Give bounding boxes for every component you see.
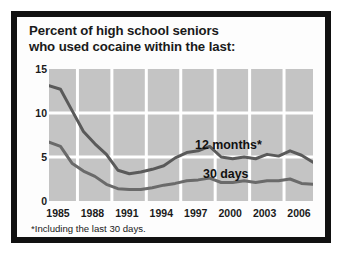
x-axis: 19851988199119941997200020032006 (47, 207, 319, 221)
plot-area (49, 69, 313, 201)
y-axis-tick-label: 5 (25, 151, 47, 163)
x-axis-tick-label: 1985 (46, 207, 69, 219)
x-axis-tick-label: 1997 (184, 207, 207, 219)
chart-card-inner: Percent of high school seniors who used … (17, 17, 325, 237)
x-axis-tick-label: 2003 (253, 207, 276, 219)
chart-title-line-2: who used cocaine within the last: (29, 39, 319, 55)
series-label-30-days: 30 days (203, 167, 248, 181)
chart-card: Percent of high school seniors who used … (11, 11, 331, 243)
chart-canvas (49, 69, 313, 201)
y-axis-tick-label: 0 (25, 195, 47, 207)
y-axis: 151050 (19, 61, 47, 221)
chart-title: Percent of high school seniors who used … (29, 23, 319, 55)
x-axis-tick-label: 1994 (150, 207, 173, 219)
x-axis-tick-label: 2000 (218, 207, 241, 219)
x-axis-tick-label: 1991 (115, 207, 138, 219)
chart-title-line-1: Percent of high school seniors (29, 23, 319, 39)
x-axis-tick-label: 1988 (81, 207, 104, 219)
x-axis-tick-label: 2006 (287, 207, 310, 219)
y-axis-tick-label: 15 (25, 63, 47, 75)
y-axis-tick-label: 10 (25, 107, 47, 119)
chart-footnote: *Including the last 30 days. (31, 223, 146, 234)
series-label-12-months: 12 months* (195, 138, 262, 152)
